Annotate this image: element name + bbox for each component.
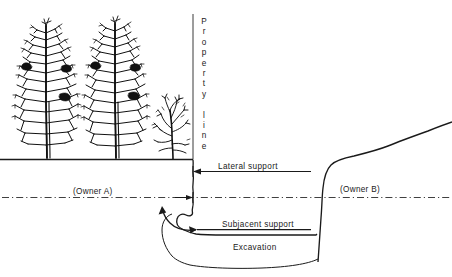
property-line-label-char: P: [201, 17, 207, 26]
property-line-label-char: t: [203, 79, 206, 88]
property-line-label-char: i: [203, 121, 205, 130]
property-line-label-char: y: [202, 90, 207, 99]
subjacent-support-label: Subjacent support: [222, 220, 294, 229]
tree-conifer-large-left: [12, 18, 81, 158]
tree-conifer-large-center: [81, 16, 150, 158]
owner-b-label: (Owner B): [340, 185, 380, 194]
property-line-label-char: l: [203, 111, 205, 120]
tree-bare-shrub-right: [152, 94, 190, 159]
property-line-label-char: o: [202, 38, 207, 47]
owner-a-label: (Owner A): [73, 187, 113, 196]
slope-right-grade: [318, 122, 452, 262]
property-line-label-char: r: [203, 69, 206, 78]
property-line-label: Propertyline: [201, 17, 207, 151]
excavation-floor-line: [226, 234, 317, 235]
property-line-label-char: r: [203, 27, 206, 36]
support-diagram: Lateral support Subjacent support Excava…: [0, 0, 452, 277]
property-line-label-char: n: [202, 131, 207, 140]
excavation-label: Excavation: [233, 243, 277, 252]
lateral-support-label: Lateral support: [218, 162, 278, 171]
property-line-label-char: e: [202, 59, 207, 68]
datum-wall-arrow: [175, 192, 193, 203]
diagram-canvas: Lateral support Subjacent support Excava…: [0, 0, 452, 277]
property-line-label-char: e: [202, 142, 207, 151]
property-line-label-char: p: [202, 48, 207, 57]
